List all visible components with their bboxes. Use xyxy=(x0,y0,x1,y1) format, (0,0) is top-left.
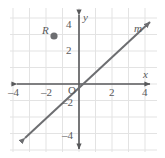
y-tick-label-neg2: –2 xyxy=(62,96,73,108)
x-tick-label-pos4: 4 xyxy=(142,86,148,98)
x-tick-label-neg2: –2 xyxy=(41,86,52,98)
x-axis-name-label: x xyxy=(143,68,148,80)
line-m-label: m xyxy=(134,22,142,34)
y-tick-label-pos2: 2 xyxy=(66,44,72,56)
coordinate-plane-figure: –4 –2 2 4 4 2 –2 –4 O x y R m xyxy=(0,0,165,158)
y-tick-label-neg4: –4 xyxy=(62,129,73,141)
x-tick-label-neg4: –4 xyxy=(8,86,19,98)
y-axis-name-label: y xyxy=(83,11,88,23)
point-r-marker xyxy=(50,32,57,39)
y-tick-label-pos4: 4 xyxy=(66,18,72,30)
origin-label: O xyxy=(68,84,76,96)
point-r-label: R xyxy=(42,24,49,36)
x-tick-label-pos2: 2 xyxy=(109,86,115,98)
